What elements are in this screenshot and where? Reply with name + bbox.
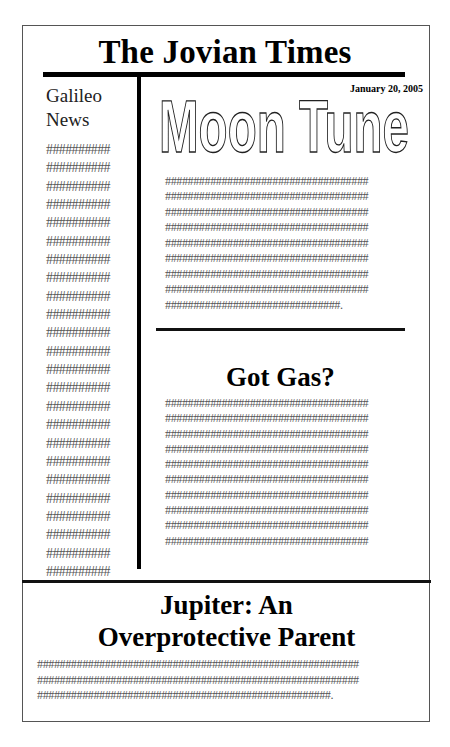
- sidebar-title: Galileo News: [46, 84, 102, 132]
- body-text-line: ##########: [46, 526, 110, 544]
- body-text-line: ####################################: [165, 472, 368, 487]
- body-text-line: ##########: [46, 233, 110, 251]
- body-text-line: ##########: [46, 178, 110, 196]
- body-text-line: ####################################: [165, 427, 368, 442]
- body-text-line: ##########: [46, 508, 110, 526]
- got-gas-body-text: ########################################…: [165, 396, 368, 549]
- moon-tune-headline: Moon Tune: [156, 86, 412, 160]
- body-text-line: ####################################: [165, 518, 368, 533]
- newspaper-masthead: The Jovian Times: [0, 32, 450, 72]
- jupiter-body-text: ########################################…: [37, 657, 359, 704]
- body-text-line: ##########: [46, 141, 110, 159]
- got-gas-headline: Got Gas?: [156, 360, 405, 394]
- body-text-line: ##########: [46, 324, 110, 342]
- body-text-line: ########################################…: [37, 657, 359, 673]
- body-text-line: ##########: [46, 490, 110, 508]
- body-text-line: ####################################: [165, 457, 368, 472]
- body-text-line: ##########: [46, 196, 110, 214]
- moon-tune-body-text: ########################################…: [165, 174, 368, 313]
- body-text-line: ##########: [46, 453, 110, 471]
- jupiter-headline: Jupiter: An Overprotective Parent: [22, 589, 431, 653]
- body-text-line: ####################################: [165, 442, 368, 457]
- body-text-line: ####################################: [165, 189, 368, 204]
- body-text-line: ####################################: [165, 236, 368, 251]
- body-text-line: ####################################: [165, 488, 368, 503]
- body-text-line: ##########: [46, 343, 110, 361]
- body-text-line: ###############################.: [165, 298, 368, 313]
- sidebar-title-line2: News: [46, 108, 102, 132]
- body-text-line: ##########: [46, 251, 110, 269]
- body-text-line: ####################################: [165, 534, 368, 549]
- body-text-line: ####################################: [165, 220, 368, 235]
- body-text-line: ##########: [46, 361, 110, 379]
- body-text-line: ########################################…: [37, 673, 359, 689]
- body-text-line: ##########: [46, 398, 110, 416]
- body-text-line: ##########: [46, 545, 110, 563]
- body-text-line: ####################################: [165, 205, 368, 220]
- body-text-line: ########################################…: [37, 688, 359, 704]
- body-text-line: ####################################: [165, 267, 368, 282]
- body-text-line: ##########: [46, 214, 110, 232]
- sidebar-title-line1: Galileo: [46, 84, 102, 108]
- body-text-line: ##########: [46, 288, 110, 306]
- body-text-line: ####################################: [165, 411, 368, 426]
- body-text-line: ####################################: [165, 282, 368, 297]
- sidebar-body-text: ########################################…: [46, 141, 110, 581]
- jupiter-headline-line1: Jupiter: An: [22, 589, 431, 621]
- body-text-line: ##########: [46, 269, 110, 287]
- column-divider: [137, 72, 141, 569]
- body-text-line: ##########: [46, 471, 110, 489]
- body-text-line: ####################################: [165, 174, 368, 189]
- body-text-line: ##########: [46, 563, 110, 581]
- body-text-line: ##########: [46, 435, 110, 453]
- body-text-line: ##########: [46, 306, 110, 324]
- body-text-line: ####################################: [165, 251, 368, 266]
- masthead-rule: [43, 72, 405, 77]
- jupiter-headline-line2: Overprotective Parent: [22, 621, 431, 653]
- body-text-line: ####################################: [165, 503, 368, 518]
- body-text-line: ##########: [46, 379, 110, 397]
- body-text-line: ##########: [46, 159, 110, 177]
- svg-text:Moon Tune: Moon Tune: [159, 86, 409, 160]
- body-text-line: ##########: [46, 416, 110, 434]
- article-divider: [156, 328, 405, 331]
- body-text-line: ####################################: [165, 396, 368, 411]
